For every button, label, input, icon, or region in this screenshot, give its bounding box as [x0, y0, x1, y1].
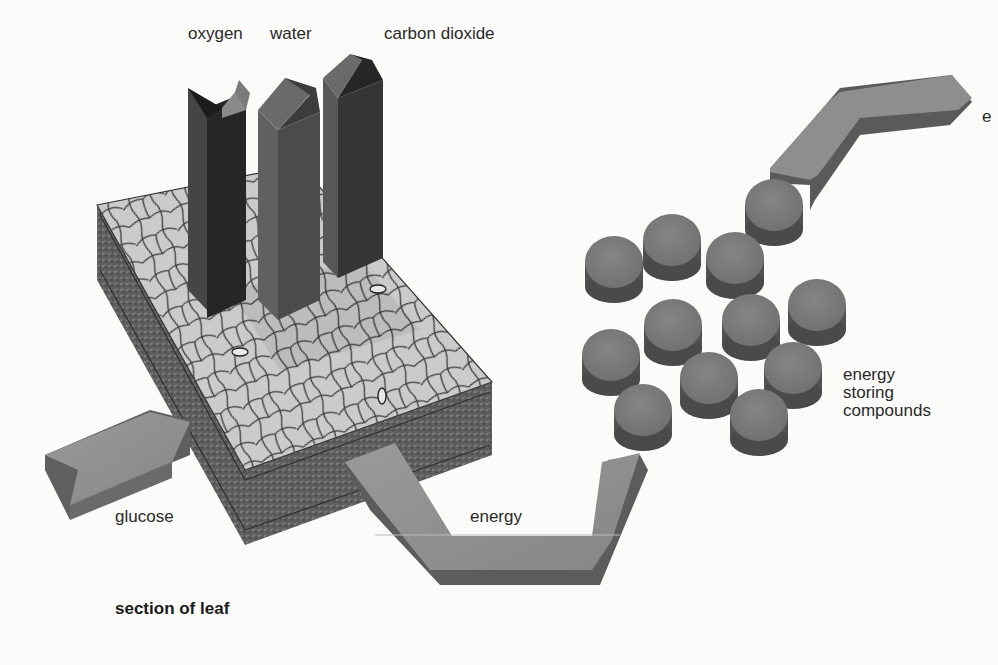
disc: [582, 329, 640, 396]
label-water: water: [270, 25, 312, 43]
label-oxygen: oxygen: [188, 25, 243, 43]
label-line: energy: [843, 366, 983, 384]
label-energy: energy: [470, 508, 522, 526]
label-section-of-leaf: section of leaf: [115, 600, 229, 618]
carbon-dioxide-prism: [323, 54, 383, 278]
disc: [614, 384, 672, 451]
diagram-canvas: oxygen water carbon dioxide glucose ener…: [0, 0, 998, 665]
disc: [745, 179, 803, 246]
disc: [788, 279, 846, 346]
disc: [644, 299, 702, 366]
water-prism: [258, 78, 320, 320]
oxygen-prism: [188, 80, 250, 318]
label-cut-off-energy: e: [982, 108, 991, 126]
energy-storing-discs: [582, 179, 846, 456]
outgoing-energy-arrow: [770, 75, 972, 210]
disc: [643, 214, 701, 281]
label-line: storing: [843, 384, 983, 402]
label-carbon-dioxide: carbon dioxide: [384, 25, 495, 43]
disc: [706, 232, 764, 299]
label-glucose: glucose: [115, 508, 174, 526]
label-line: compounds: [843, 402, 983, 420]
disc: [730, 389, 788, 456]
glucose-arrow: [45, 410, 190, 520]
disc: [680, 352, 738, 419]
label-energy-storing-compounds: energy storing compounds: [843, 366, 983, 420]
disc: [585, 236, 643, 303]
